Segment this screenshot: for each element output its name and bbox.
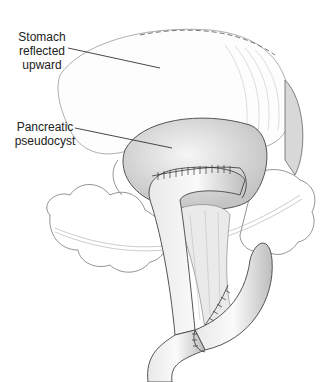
medical-illustration: Stomach reflected upward Pancreatic pseu… [0, 0, 326, 382]
pseudocyst-label-line-1: Pancreatic [12, 120, 78, 134]
stomach-label: Stomach reflected upward [12, 30, 72, 72]
stomach-label-line-3: upward [12, 58, 72, 72]
pseudocyst-label-line-2: pseudocyst [12, 134, 78, 148]
stomach-label-line-2: reflected [12, 44, 72, 58]
stomach-label-line-1: Stomach [12, 30, 72, 44]
pseudocyst-label: Pancreatic pseudocyst [12, 120, 78, 148]
